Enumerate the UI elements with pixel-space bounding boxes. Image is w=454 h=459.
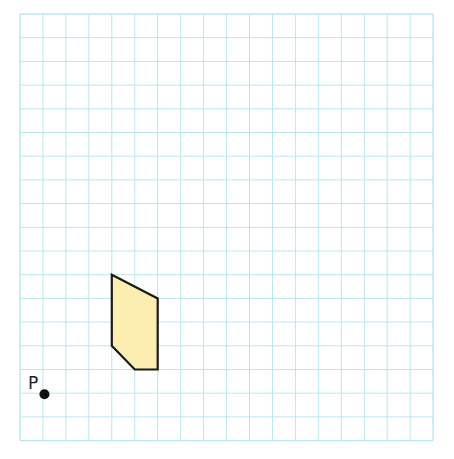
shaded-polygon bbox=[112, 275, 158, 370]
grid bbox=[20, 14, 433, 441]
point-p-dot bbox=[39, 389, 49, 399]
point-p-label: P bbox=[28, 373, 38, 393]
grid-diagram: P bbox=[0, 0, 454, 459]
